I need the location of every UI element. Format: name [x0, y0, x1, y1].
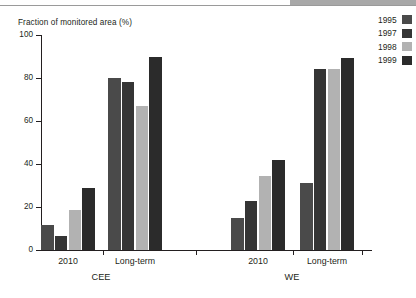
y-tick-label: 60: [24, 116, 33, 125]
legend-color-swatch: [402, 29, 412, 38]
bar-1997-group-3: [314, 69, 327, 250]
legend: 1995199719981999: [378, 13, 416, 67]
legend-item-label: 1995: [378, 15, 399, 25]
bar-1995-group-1: [108, 78, 121, 250]
bar-chart: Fraction of monitored area (%) 100806040…: [0, 12, 416, 298]
x-group-label: Long-term: [95, 256, 175, 266]
x-region-label: CEE: [61, 272, 141, 282]
bar-1999-group-0: [82, 188, 95, 250]
bar-1997-group-0: [55, 236, 68, 250]
bar-1998-group-1: [136, 106, 149, 250]
bar-1998-group-3: [328, 69, 341, 250]
y-tick-label: 80: [24, 73, 33, 82]
top-divider-rule: [0, 5, 416, 6]
y-tick-label: 0: [28, 245, 33, 254]
x-region-label: WE: [252, 272, 332, 282]
x-tick-mark: [103, 251, 104, 255]
top-gray-block: [290, 0, 416, 5]
x-tick-mark: [293, 251, 294, 255]
x-axis-line: [41, 250, 372, 251]
y-tick: 0: [36, 250, 41, 251]
x-tick-mark: [362, 251, 363, 255]
bar-1998-group-2: [259, 176, 272, 250]
bar-1997-group-1: [122, 82, 135, 250]
bar-1995-group-2: [231, 218, 244, 250]
legend-item: 1997: [378, 27, 416, 41]
plot-area: [41, 35, 372, 250]
legend-color-swatch: [402, 56, 412, 65]
legend-item: 1998: [378, 40, 416, 54]
legend-item-label: 1997: [378, 28, 399, 38]
y-tick-label: 20: [24, 202, 33, 211]
bar-1999-group-3: [341, 58, 354, 250]
bar-1999-group-2: [272, 160, 285, 250]
bar-1997-group-2: [245, 201, 258, 250]
bar-1995-group-3: [300, 183, 313, 250]
legend-color-swatch: [402, 15, 412, 24]
bar-1998-group-0: [69, 210, 82, 250]
bar-1999-group-1: [149, 57, 162, 251]
legend-item: 1995: [378, 13, 416, 27]
x-group-label: 2010: [218, 256, 298, 266]
y-axis-title: Fraction of monitored area (%): [18, 18, 132, 27]
y-tick-label: 40: [24, 159, 33, 168]
y-tick-label: 100: [19, 30, 33, 39]
legend-item: 1999: [378, 54, 416, 68]
x-group-label: Long-term: [287, 256, 367, 266]
bar-1995-group-0: [41, 225, 54, 250]
legend-item-label: 1998: [378, 42, 399, 52]
legend-item-label: 1999: [378, 55, 399, 65]
legend-color-swatch: [402, 42, 412, 51]
x-tick-mark: [196, 251, 197, 255]
y-tick-mark: [36, 250, 41, 251]
